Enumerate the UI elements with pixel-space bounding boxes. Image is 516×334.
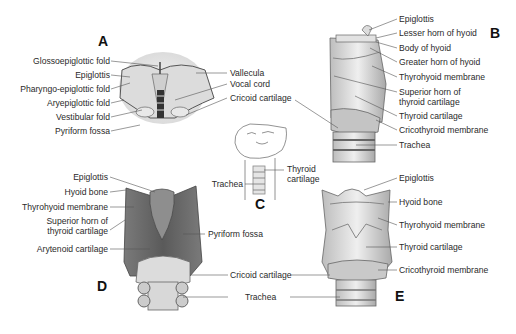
panel-letter-a: A xyxy=(98,33,108,49)
panel-e-illustration xyxy=(322,189,392,306)
label-cricothyroid-membrane-e: Cricothyroid membrane xyxy=(399,265,488,275)
label-thyroid-cartilage-b: Thyroid cartilage xyxy=(399,111,463,121)
label-arytenoid-cartilage: Arytenoid cartilage xyxy=(37,244,108,254)
label-epiglottis-b: Epiglottis xyxy=(399,14,434,24)
label-glossoepiglottic-fold: Glossoepiglottic fold xyxy=(33,56,110,66)
label-cricoid-cartilage-shared: Cricoid cartilage xyxy=(230,270,292,280)
panel-letter-c: C xyxy=(255,196,265,212)
label-superior-horn-b-line1: Superior horn of xyxy=(399,87,461,97)
label-thyroid-c-line2: cartilage xyxy=(287,174,319,184)
label-hyoid-bone-e: Hyoid bone xyxy=(399,197,442,207)
label-superior-horn-d-line1: Superior horn of xyxy=(46,216,108,226)
label-aryepiglottic-fold: Aryepiglottic fold xyxy=(47,98,110,108)
label-vocal-cord: Vocal cord xyxy=(230,79,270,89)
label-lesser-horn-hyoid: Lesser horn of hyoid xyxy=(399,28,477,38)
label-trachea-shared: Trachea xyxy=(245,292,276,302)
label-superior-horn-d-line2: thyroid cartilage xyxy=(47,226,108,236)
label-thyroid-cartilage-e: Thyroid cartilage xyxy=(399,242,463,252)
label-trachea-b: Trachea xyxy=(399,140,430,150)
label-body-of-hyoid: Body of hyoid xyxy=(399,43,451,53)
label-thyrohyoid-membrane-d: Thyrohyoid membrane xyxy=(22,202,108,212)
label-trachea-c: Trachea xyxy=(212,179,243,189)
label-epiglottis-e: Epiglottis xyxy=(399,173,434,183)
label-epiglottis-d: Epiglottis xyxy=(73,172,108,182)
label-vestibular-fold: Vestibular fold xyxy=(56,112,110,122)
label-cricoid-cartilage-a: Cricoid cartilage xyxy=(230,93,292,103)
label-superior-horn-b-line2: thyroid cartilage xyxy=(399,97,460,107)
panel-letter-b: B xyxy=(490,25,500,41)
label-pharyngo-epiglottic-fold: Pharyngo-epiglottic fold xyxy=(20,84,110,94)
panel-d-illustration xyxy=(124,186,202,310)
label-vallecula: Vallecula xyxy=(230,68,264,78)
panel-letter-e: E xyxy=(395,288,404,304)
label-pyriform-fossa-d: Pyriform fossa xyxy=(208,229,263,239)
label-greater-horn-hyoid: Greater horn of hyoid xyxy=(399,57,480,67)
panel-b-illustration xyxy=(330,25,386,162)
label-thyroid-c-line1: Thyroid xyxy=(287,164,316,174)
label-thyrohyoid-membrane-e: Thyrohyoid membrane xyxy=(399,220,485,230)
panel-a-illustration xyxy=(119,52,214,124)
label-thyrohyoid-membrane-b: Thyrohyoid membrane xyxy=(399,72,485,82)
label-hyoid-bone-d: Hyoid bone xyxy=(65,187,108,197)
panel-letter-d: D xyxy=(97,278,107,294)
label-pyriform-fossa-a: Pyriform fossa xyxy=(55,126,110,136)
label-epiglottis-a: Epiglottis xyxy=(75,70,110,80)
label-cricothyroid-membrane-b: Cricothyroid membrane xyxy=(399,125,488,135)
